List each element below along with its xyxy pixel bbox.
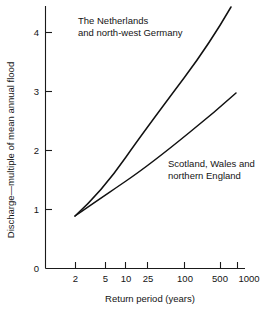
chart-svg: 4 3 2 1 0 2 5 10 25 100 500 1000 Return …	[0, 0, 273, 309]
annotation-britain-line2: northern England	[168, 170, 241, 181]
x-tick-marks	[76, 262, 238, 269]
x-tick-label-25: 25	[143, 273, 154, 284]
series-line-netherlands	[75, 7, 231, 216]
x-tick-label-2: 2	[73, 273, 78, 284]
annotation-britain-line1: Scotland, Wales and	[168, 158, 255, 169]
x-tick-label-500: 500	[212, 273, 228, 284]
annotation-netherlands-line1: The Netherlands	[78, 15, 148, 26]
y-tick-label-4: 4	[34, 27, 39, 38]
y-tick-label-0: 0	[34, 263, 39, 274]
series-line-britain	[75, 93, 236, 216]
x-tick-label-1000: 1000	[238, 273, 259, 284]
x-axis-title: Return period (years)	[105, 293, 195, 304]
y-tick-label-2: 2	[34, 145, 39, 156]
y-tick-marks	[46, 33, 53, 210]
y-axis-title: Discharge—multiple of mean annual flood	[5, 62, 16, 238]
flood-frequency-chart: 4 3 2 1 0 2 5 10 25 100 500 1000 Return …	[0, 0, 273, 309]
y-tick-label-3: 3	[34, 86, 39, 97]
annotation-netherlands-line2: and north-west Germany	[78, 27, 183, 38]
x-tick-label-100: 100	[177, 273, 193, 284]
y-tick-label-1: 1	[34, 204, 39, 215]
x-tick-label-5: 5	[103, 273, 108, 284]
x-tick-label-10: 10	[121, 273, 132, 284]
